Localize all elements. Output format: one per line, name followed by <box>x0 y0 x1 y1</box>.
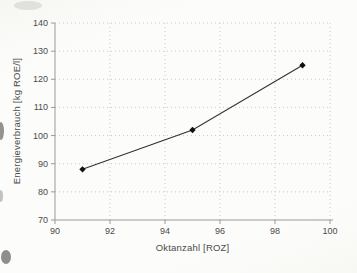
y-tick-label: 140 <box>33 18 48 28</box>
y-tick-label: 70 <box>38 215 48 225</box>
data-point-marker <box>79 166 85 172</box>
data-point-marker <box>189 127 195 133</box>
x-tick-label: 94 <box>160 226 170 236</box>
x-tick-label: 100 <box>322 226 337 236</box>
y-tick-label: 110 <box>34 102 48 112</box>
y-tick-label: 100 <box>33 131 48 141</box>
scanned-chart-figure: 7080901001101201301409092949698100 Oktan… <box>0 0 357 273</box>
line-chart: 7080901001101201301409092949698100 <box>0 0 357 273</box>
data-line <box>83 65 303 169</box>
data-point-marker <box>299 62 305 68</box>
x-tick-label: 96 <box>215 226 225 236</box>
y-tick-label: 130 <box>33 46 48 56</box>
x-axis-label: Oktanzahl [ROZ] <box>55 242 330 253</box>
x-tick-label: 98 <box>270 226 280 236</box>
y-axis-label: Energieverbrauch [kg ROE/l] <box>11 58 22 184</box>
y-tick-label: 80 <box>38 187 48 197</box>
x-tick-label: 92 <box>105 226 115 236</box>
y-tick-label: 120 <box>33 74 48 84</box>
x-tick-label: 90 <box>50 226 60 236</box>
y-tick-label: 90 <box>38 159 48 169</box>
